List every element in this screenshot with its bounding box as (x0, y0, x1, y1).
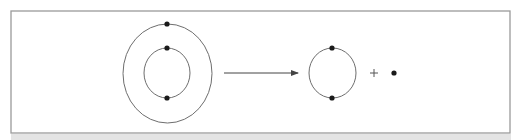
free-electron (391, 70, 396, 75)
ionization-diagram (0, 0, 519, 140)
bottom-edge-bar (11, 134, 511, 140)
electron-dot (329, 45, 334, 50)
diagram-frame (11, 11, 510, 133)
reactant-atom (123, 21, 212, 123)
electron-dot (164, 45, 169, 50)
outer-shell (123, 24, 212, 123)
plus-sign-icon (370, 69, 378, 77)
product-ion (309, 45, 356, 100)
electron-dot (164, 21, 169, 26)
inner-shell (144, 48, 190, 98)
electron-dot (164, 95, 169, 100)
remaining-shell (309, 48, 356, 98)
electron-dot (329, 95, 334, 100)
